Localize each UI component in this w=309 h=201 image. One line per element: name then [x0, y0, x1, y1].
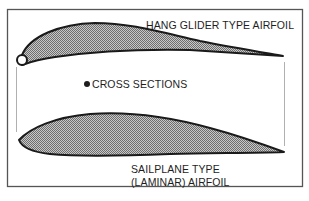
- cross-sections-label: CROSS SECTIONS: [84, 78, 187, 90]
- leading-edge-tube-icon: [17, 55, 27, 65]
- sailplane-label-line2: (LAMINAR) AIRFOIL: [131, 176, 230, 189]
- sailplane-label: SAILPLANE TYPE (LAMINAR) AIRFOIL: [131, 163, 230, 189]
- sailplane-airfoil-shape: [19, 113, 284, 156]
- hang-glider-label: HANG GLIDER TYPE AIRFOIL: [146, 19, 294, 31]
- sailplane-label-line1: SAILPLANE TYPE: [131, 163, 230, 176]
- cross-sections-text: CROSS SECTIONS: [92, 78, 187, 90]
- bullet-icon: [84, 81, 90, 87]
